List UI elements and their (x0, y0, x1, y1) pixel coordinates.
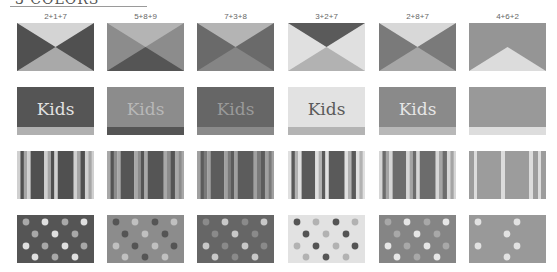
polka-dot (303, 254, 310, 261)
stripe (454, 151, 456, 199)
stripe (265, 151, 269, 199)
polka-dot (313, 219, 320, 226)
stripe (386, 151, 390, 199)
stripe (319, 151, 323, 199)
stripe (24, 151, 28, 199)
polka-dot (72, 254, 79, 261)
stripe-pattern-swatch (197, 151, 274, 199)
stripe (107, 151, 111, 199)
polka-dot (52, 231, 59, 238)
stripe (224, 151, 228, 199)
triangle-pattern-swatch (107, 23, 184, 71)
dot-pattern-swatch (17, 215, 94, 263)
kids-banner-swatch: Kids (107, 87, 184, 135)
stripe-pattern-swatch (469, 151, 546, 199)
stripe (182, 151, 184, 199)
triangle-pattern-swatch (17, 23, 94, 71)
polka-dot (222, 219, 229, 226)
triangle-pattern-swatch (197, 23, 274, 71)
polka-dot (222, 243, 229, 250)
polka-dot (122, 231, 129, 238)
stripe (538, 151, 541, 199)
stripe (382, 151, 386, 199)
polka-dot (424, 243, 431, 250)
polka-dot (514, 219, 521, 226)
triangle-pattern-swatch (379, 23, 456, 71)
polka-dot (142, 254, 149, 261)
stripe-pattern-swatch (107, 151, 184, 199)
stripe (541, 151, 546, 199)
polka-dot (113, 219, 120, 226)
polka-dot (23, 243, 30, 250)
stripe (389, 151, 393, 199)
polka-dot (261, 243, 268, 250)
kids-banner-swatch: Kids (17, 87, 94, 135)
polka-dot (162, 254, 169, 261)
stripe (92, 151, 94, 199)
stripe (439, 151, 443, 199)
stripe (447, 151, 451, 199)
stripe (469, 151, 474, 199)
stripe (234, 151, 238, 199)
polka-dot (475, 243, 482, 250)
polka-dot (81, 219, 88, 226)
stripe (167, 151, 171, 199)
kids-label: Kids (308, 99, 346, 119)
stripe (393, 151, 407, 199)
stripe (51, 151, 55, 199)
polka-dot (142, 231, 149, 238)
polka-dot (514, 243, 521, 250)
banner-band (288, 127, 365, 135)
stripe (436, 151, 440, 199)
polka-dot (352, 219, 359, 226)
polka-dot (323, 231, 330, 238)
stripe (501, 151, 505, 199)
polka-dot (443, 243, 450, 250)
polka-dot (343, 231, 350, 238)
stripe (88, 151, 92, 199)
polka-dot (212, 254, 219, 261)
kids-label: Kids (399, 99, 437, 119)
stripe (164, 151, 168, 199)
polka-dot (203, 243, 210, 250)
stripe (80, 151, 85, 199)
stripe (77, 151, 81, 199)
polka-dot (152, 243, 159, 250)
stripe (450, 151, 454, 199)
polka-dot (81, 243, 88, 250)
polka-dot (252, 231, 259, 238)
stripe (110, 151, 114, 199)
stripe (257, 151, 261, 199)
polka-dot (132, 243, 139, 250)
polka-dot (23, 219, 30, 226)
stripe (291, 151, 295, 199)
polka-dot (333, 219, 340, 226)
polka-dot (404, 219, 411, 226)
polka-dot (343, 254, 350, 261)
polka-dot (394, 231, 401, 238)
dot-pattern-swatch (288, 215, 365, 263)
banner-band (379, 127, 456, 135)
stripe (204, 151, 208, 199)
polka-dot (414, 254, 421, 261)
banner-band (197, 127, 274, 135)
stripe (58, 151, 74, 199)
polka-dot (475, 219, 482, 226)
stripe (175, 151, 179, 199)
stripe (238, 151, 254, 199)
polka-dot (171, 243, 178, 250)
stripe (74, 151, 78, 199)
polka-dot (242, 243, 249, 250)
stripe (207, 151, 211, 199)
dot-pattern-swatch (469, 215, 546, 263)
polka-dot (414, 231, 421, 238)
polka-dot (323, 254, 330, 261)
stripe (17, 151, 21, 199)
stripe (420, 151, 436, 199)
stripe (288, 151, 292, 199)
stripe (533, 151, 538, 199)
stripe (48, 151, 52, 199)
polka-dot (434, 254, 441, 261)
polka-dot (42, 243, 49, 250)
stripe-pattern-swatch (288, 151, 365, 199)
